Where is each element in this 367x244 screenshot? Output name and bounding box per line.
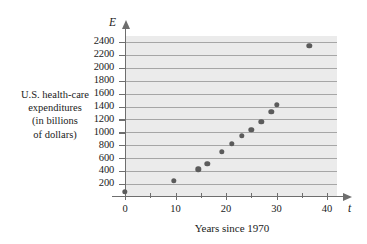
x-axis-line	[112, 196, 344, 197]
x-axis-tick	[327, 193, 328, 200]
x-axis-tick	[226, 193, 227, 200]
y-axis-line	[125, 28, 126, 198]
y-axis-tick	[119, 158, 126, 159]
y-axis-tick-label: 2200	[68, 49, 114, 60]
gridline	[126, 81, 337, 82]
x-axis-minor-tick	[251, 193, 252, 198]
gridline	[126, 68, 337, 69]
x-axis-tick	[176, 193, 177, 200]
x-axis-minor-tick	[302, 193, 303, 198]
gridline	[126, 94, 337, 95]
y-axis-tick	[119, 119, 126, 120]
gridline	[126, 42, 337, 43]
y-axis-tick	[119, 132, 126, 133]
y-axis-tick-label: 1400	[68, 101, 114, 112]
y-axis-tick	[119, 145, 126, 146]
y-axis-tick	[119, 171, 126, 172]
x-axis-tick-label: 40	[312, 203, 342, 214]
y-axis-tick	[119, 42, 126, 43]
y-axis-tick	[119, 55, 126, 56]
gridline	[126, 171, 337, 172]
y-axis-tick	[119, 68, 126, 69]
scatter-plot-figure: E t U.S. health-careexpenditures(in bill…	[0, 0, 367, 244]
gridline	[126, 107, 337, 108]
x-axis-tick-label: 20	[211, 203, 241, 214]
x-axis-tick	[277, 193, 278, 200]
x-axis-tick-label: 10	[161, 203, 191, 214]
y-axis-tick	[119, 94, 126, 95]
x-axis-title: Years since 1970	[132, 222, 332, 234]
y-axis-arrow-icon	[122, 20, 130, 29]
gridline	[126, 184, 337, 185]
y-axis-tick-label: 1800	[68, 75, 114, 86]
y-axis-tick-label: 600	[68, 153, 114, 164]
gridline	[126, 119, 337, 120]
gridline	[126, 158, 337, 159]
x-axis-minor-tick	[201, 193, 202, 198]
y-axis-tick-label: 400	[68, 165, 114, 176]
x-axis-minor-tick	[150, 193, 151, 198]
y-axis-tick-label: 2000	[68, 62, 114, 73]
y-axis-tick-label: 2400	[68, 36, 114, 47]
plot-area	[126, 36, 337, 196]
x-axis-tick-label: 30	[262, 203, 292, 214]
y-axis-tick	[119, 107, 126, 108]
y-axis-tick	[119, 81, 126, 82]
y-axis-tick-label: 1200	[68, 114, 114, 125]
x-axis-arrow-icon	[343, 193, 352, 201]
x-axis-tick-label: 0	[110, 203, 140, 214]
y-axis-variable-label: E	[109, 16, 116, 28]
gridline	[126, 55, 337, 56]
y-axis-tick-label: 1600	[68, 88, 114, 99]
x-axis-variable-label: t	[348, 202, 351, 214]
y-axis-tick	[119, 184, 126, 185]
y-axis-tick-label: 800	[68, 140, 114, 151]
y-axis-tick-label: 200	[68, 178, 114, 189]
y-axis-tick-label: 1000	[68, 127, 114, 138]
gridline	[126, 132, 337, 133]
